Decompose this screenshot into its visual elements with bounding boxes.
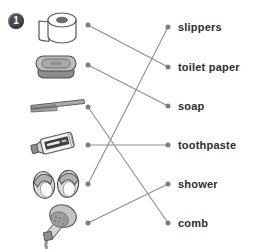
dot-toilet-paper-word[interactable]: [166, 65, 171, 70]
dot-toilet-paper-image[interactable]: [86, 23, 91, 28]
word-toothpaste[interactable]: toothpaste: [166, 138, 236, 152]
dot-slippers-word[interactable]: [166, 25, 171, 30]
word-slippers[interactable]: slippers: [166, 20, 222, 34]
dot-slippers-image[interactable]: [86, 182, 91, 187]
word-label: shower: [178, 179, 218, 190]
shower-icon: [34, 203, 80, 249]
word-label: comb: [178, 218, 208, 229]
dot-soap-image[interactable]: [86, 63, 91, 68]
matching-exercise-panel: 1: [0, 0, 254, 249]
word-label: soap: [178, 101, 204, 112]
slippers-icon: [30, 164, 84, 204]
dot-comb-word[interactable]: [166, 221, 171, 226]
word-toilet-paper[interactable]: toilet paper: [166, 60, 240, 74]
dot-toothpaste-image[interactable]: [86, 143, 91, 148]
item-toothpaste[interactable]: [29, 127, 81, 161]
word-label: toilet paper: [178, 62, 240, 73]
toothpaste-icon: [29, 127, 81, 161]
word-comb[interactable]: comb: [166, 216, 208, 230]
dot-toothpaste-word[interactable]: [166, 143, 171, 148]
item-soap[interactable]: [33, 52, 79, 82]
soap-icon: [33, 52, 79, 82]
dot-comb-image[interactable]: [86, 105, 91, 110]
word-soap[interactable]: soap: [166, 99, 204, 113]
item-slippers[interactable]: [30, 164, 84, 204]
word-shower[interactable]: shower: [166, 177, 218, 191]
toilet-paper-icon: [35, 10, 79, 46]
comb-icon: [29, 96, 87, 114]
word-label: toothpaste: [178, 140, 236, 151]
dot-shower-image[interactable]: [86, 221, 91, 226]
item-shower[interactable]: [34, 203, 80, 249]
word-label: slippers: [178, 22, 222, 33]
dot-shower-word[interactable]: [166, 182, 171, 187]
item-toilet-paper[interactable]: [35, 10, 79, 46]
dot-soap-word[interactable]: [166, 104, 171, 109]
item-comb[interactable]: [29, 96, 87, 114]
